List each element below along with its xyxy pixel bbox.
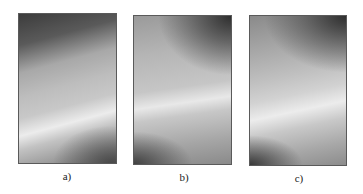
panel-b-shade-bottom xyxy=(134,16,231,164)
panel-c-label: c) xyxy=(279,172,319,184)
panel-a-label: a) xyxy=(47,170,87,182)
panel-c-shade-bottom xyxy=(250,16,346,165)
panel-a-shade xyxy=(19,14,116,163)
panel-c-image xyxy=(249,15,347,166)
panel-a-image xyxy=(18,13,117,164)
panel-b-label: b) xyxy=(164,171,204,183)
panel-b-image xyxy=(133,15,232,165)
